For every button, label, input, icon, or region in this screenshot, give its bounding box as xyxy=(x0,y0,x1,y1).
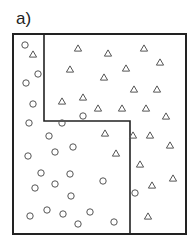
circle-marker xyxy=(46,133,52,139)
triangle-marker xyxy=(58,98,65,104)
triangle-marker xyxy=(144,213,151,219)
triangle-marker xyxy=(94,105,101,111)
circle-markers-group xyxy=(22,42,138,227)
circle-marker xyxy=(80,113,86,119)
circle-marker xyxy=(67,171,73,177)
triangle-marker xyxy=(148,182,155,188)
triangle-marker xyxy=(153,86,160,92)
circle-marker xyxy=(27,213,33,219)
circle-marker xyxy=(38,170,44,176)
triangle-marker xyxy=(100,74,107,80)
panel-label: a) xyxy=(16,10,31,28)
triangle-marker xyxy=(79,94,86,100)
circle-marker xyxy=(100,178,106,184)
classification-diagram xyxy=(0,0,194,244)
circle-marker xyxy=(52,149,58,155)
triangle-marker xyxy=(101,130,108,136)
circle-marker xyxy=(111,219,117,225)
circle-marker xyxy=(60,211,66,217)
triangle-marker xyxy=(122,65,129,71)
circle-marker xyxy=(70,144,76,150)
triangle-marker xyxy=(74,45,81,51)
triangle-marker xyxy=(166,142,173,148)
triangle-marker xyxy=(66,66,73,72)
circle-marker xyxy=(35,71,41,77)
decision-boundary-line xyxy=(44,34,130,234)
triangle-marker xyxy=(130,86,137,92)
triangle-marker xyxy=(112,150,119,156)
triangle-marker xyxy=(140,45,147,51)
triangle-marker xyxy=(156,59,163,65)
circle-marker xyxy=(44,207,50,213)
circle-marker xyxy=(68,193,74,199)
triangle-marker xyxy=(142,105,149,111)
circle-marker xyxy=(23,80,29,86)
circle-marker xyxy=(75,221,81,227)
circle-marker xyxy=(30,101,36,107)
triangle-marker xyxy=(104,50,111,56)
triangle-marker xyxy=(29,51,36,57)
circle-marker xyxy=(52,181,58,187)
circle-marker xyxy=(25,153,31,159)
circle-marker xyxy=(87,209,93,215)
triangle-markers-group xyxy=(29,45,176,219)
triangle-marker xyxy=(162,113,169,119)
circle-marker xyxy=(32,185,38,191)
triangle-marker xyxy=(118,105,125,111)
outer-boundary-box xyxy=(13,34,186,234)
circle-marker xyxy=(26,120,32,126)
circle-marker xyxy=(132,190,138,196)
triangle-marker xyxy=(136,161,143,167)
triangle-marker xyxy=(169,175,176,181)
triangle-marker xyxy=(146,132,153,138)
circle-marker xyxy=(22,42,28,48)
